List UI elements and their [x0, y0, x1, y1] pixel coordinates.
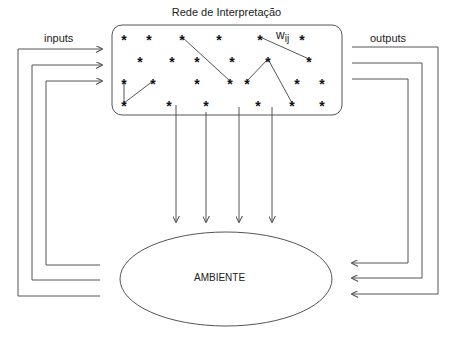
network-node-star: *: [229, 55, 234, 69]
network-node-star: *: [146, 33, 151, 47]
diagram-canvas: [0, 0, 453, 338]
network-node-star: *: [257, 33, 262, 47]
network-node-star: *: [194, 77, 199, 91]
network-node-star: *: [216, 33, 221, 47]
network-title: Rede de Interpretação: [0, 6, 453, 18]
network-node-star: *: [289, 99, 294, 113]
network-node-star: *: [294, 77, 299, 91]
network-node-star: *: [121, 99, 126, 113]
outputs-label: outputs: [370, 32, 406, 44]
network-node-star: *: [121, 77, 126, 91]
network-node-star: *: [150, 77, 155, 91]
network-node-star: *: [255, 99, 260, 113]
network-node-star: *: [319, 77, 324, 91]
network-node-star: *: [319, 99, 324, 113]
environment-label: AMBIENTE: [194, 272, 245, 283]
network-node-star: *: [169, 55, 174, 69]
action-arrows: [176, 105, 272, 222]
weight-label-main: w: [276, 28, 285, 42]
weight-label-sub: ij: [285, 33, 289, 44]
input-lines: [18, 49, 102, 296]
network-node-star: *: [306, 55, 311, 69]
network-node-star: *: [121, 33, 126, 47]
network-node-star: *: [179, 33, 184, 47]
network-connection: [268, 59, 292, 103]
weight-label: wij: [276, 28, 289, 44]
network-connection: [124, 81, 153, 103]
network-node-star: *: [265, 55, 270, 69]
inputs-label: inputs: [44, 32, 73, 44]
network-node-star: *: [137, 55, 142, 69]
network-node-star: *: [194, 55, 199, 69]
network-node-star: *: [244, 77, 249, 91]
network-node-star: *: [203, 99, 208, 113]
network-connection: [182, 37, 230, 81]
network-node-star: *: [227, 77, 232, 91]
network-node-star: *: [299, 33, 304, 47]
network-node-star: *: [166, 99, 171, 113]
output-lines: [352, 47, 438, 294]
